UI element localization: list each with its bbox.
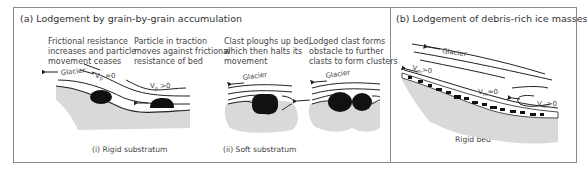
vm-positive-label-left: Vm>0	[411, 64, 432, 76]
clast-lodged-cluster-2	[352, 93, 372, 111]
vp-positive-label: Vp >0	[150, 82, 171, 92]
glacier-label-soft-2: Glacier	[325, 69, 351, 80]
glacier-flow-arrow	[315, 81, 327, 82]
glacier-label-rigid: Glacier	[60, 66, 85, 77]
debris-rich-ice-diagram: Glacier Vm>0 Vm=0 Vm>0	[402, 44, 558, 144]
soft-substratum-cluster-diagram: Glacier	[309, 69, 380, 132]
glacier-label-b: Glacier	[442, 47, 468, 58]
clast-lodged	[90, 90, 112, 104]
vm-zero-label: Vm=0	[478, 88, 498, 97]
transition-arrow	[297, 100, 310, 101]
clast-moving	[150, 98, 174, 108]
glacier-flow-arrow	[232, 83, 244, 84]
glacier-label-soft-1: Glacier	[242, 71, 268, 82]
soft-substratum-ploughing-diagram: Glacier	[225, 71, 298, 133]
clast-lodged-cluster-1	[328, 92, 352, 112]
clast-ploughing	[252, 94, 278, 114]
vm-positive-label-right: Vm>0	[537, 100, 557, 109]
